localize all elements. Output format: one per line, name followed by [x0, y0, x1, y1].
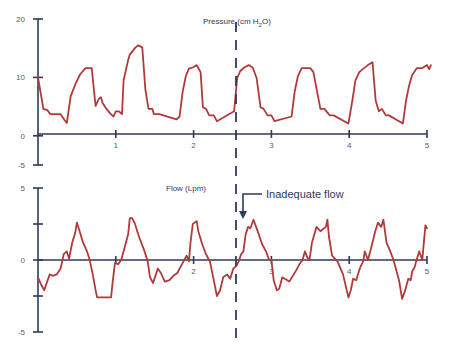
pressure-panel: 20100-5 12345 Pressure (cm H2O)	[16, 15, 431, 170]
x-tick-label: 5	[425, 141, 430, 150]
flow-panel: 50-5 2345 Flow (Lpm)	[18, 184, 430, 337]
y-tick-label: 5	[21, 184, 26, 193]
pressure-title: Pressure (cm H2O)	[203, 17, 271, 28]
y-tick-label: -5	[18, 328, 26, 337]
flow-title: Flow (Lpm)	[166, 184, 206, 193]
annotation-label: Inadequate flow	[266, 188, 344, 200]
pressure-trace	[38, 45, 431, 123]
x-tick-label: 4	[347, 267, 352, 276]
y-tick-label: 0	[21, 132, 26, 141]
y-tick-label: 0	[21, 256, 26, 265]
flow-y-ticks: 50-5	[18, 184, 43, 337]
x-tick-label: 4	[347, 141, 352, 150]
annotation-arrow-icon	[243, 194, 262, 213]
x-tick-label: 5	[425, 267, 430, 276]
x-tick-label: 2	[191, 141, 196, 150]
pressure-y-ticks: 20100-5	[16, 15, 43, 170]
x-tick-label: 2	[191, 267, 196, 276]
pressure-x-ticks: 12345	[114, 130, 430, 150]
flow-trace	[38, 218, 427, 299]
inadequate-flow-annotation: Inadequate flow	[239, 188, 344, 219]
arrowhead-icon	[239, 211, 247, 219]
ventilator-waveform-chart: 20100-5 12345 Pressure (cm H2O) 50-5 234…	[0, 0, 451, 355]
x-tick-label: 1	[114, 141, 119, 150]
y-tick-label: 20	[16, 15, 25, 24]
y-tick-label: -5	[18, 161, 26, 170]
x-tick-label: 3	[269, 141, 274, 150]
y-tick-label: 10	[16, 73, 25, 82]
